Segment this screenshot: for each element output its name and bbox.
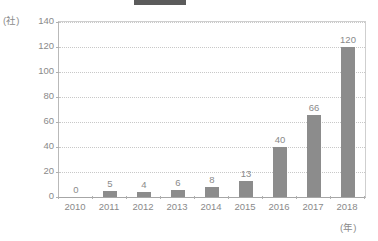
y-axis-tick-label: 60 xyxy=(14,116,54,126)
bar-value-label: 66 xyxy=(309,103,320,113)
y-axis-tick-label: 20 xyxy=(14,166,54,176)
x-axis-tick-label: 2011 xyxy=(92,201,126,212)
bar-value-label: 40 xyxy=(275,135,286,145)
bar-group: 4 xyxy=(127,22,161,197)
bar[interactable] xyxy=(307,115,321,198)
bar-group: 40 xyxy=(263,22,297,197)
y-axis-tick-label: 120 xyxy=(14,41,54,51)
bar-group: 120 xyxy=(331,22,365,197)
x-axis-unit-label: (年) xyxy=(340,222,356,233)
bar-group: 6 xyxy=(161,22,195,197)
x-axis-tick xyxy=(296,196,297,199)
bar-group: 8 xyxy=(195,22,229,197)
x-axis-tick xyxy=(228,196,229,199)
bar-group: 66 xyxy=(297,22,331,197)
x-axis-tick xyxy=(364,196,365,199)
bar-value-label: 4 xyxy=(141,180,146,190)
x-axis-tick xyxy=(330,196,331,199)
bar-value-label: 8 xyxy=(209,175,214,185)
bar[interactable] xyxy=(171,190,185,198)
y-axis-tick-label: 140 xyxy=(14,16,54,26)
bar-chart: (社) 020406080100120140 05468134066120 20… xyxy=(0,0,378,241)
bar[interactable] xyxy=(205,187,219,197)
plot-area: 05468134066120 xyxy=(58,21,366,198)
bar-group: 0 xyxy=(59,22,93,197)
y-axis-tick-label: 0 xyxy=(14,191,54,201)
x-axis-tick-label: 2017 xyxy=(296,201,330,212)
y-axis-tick-label: 80 xyxy=(14,91,54,101)
x-axis-tick-label: 2013 xyxy=(160,201,194,212)
bar[interactable] xyxy=(103,191,117,197)
x-axis-tick-label: 2016 xyxy=(262,201,296,212)
x-axis-tick-label: 2014 xyxy=(194,201,228,212)
x-axis-tick xyxy=(262,196,263,199)
bar[interactable] xyxy=(137,192,151,197)
y-axis-labels: 020406080100120140 xyxy=(10,21,54,196)
x-axis-labels: 201020112012201320142015201620172018 xyxy=(58,201,364,215)
bar-value-label: 5 xyxy=(107,179,112,189)
bar-value-label: 6 xyxy=(175,178,180,188)
x-axis-tick xyxy=(126,196,127,199)
bar-group: 5 xyxy=(93,22,127,197)
bar-group: 13 xyxy=(229,22,263,197)
x-axis-tick-label: 2015 xyxy=(228,201,262,212)
x-axis-tick xyxy=(92,196,93,199)
y-axis-tick-label: 100 xyxy=(14,66,54,76)
bar-value-label: 0 xyxy=(73,185,78,195)
y-axis-tick-label: 40 xyxy=(14,141,54,151)
x-axis-tick xyxy=(160,196,161,199)
bar[interactable] xyxy=(239,181,253,197)
x-axis-tick-label: 2012 xyxy=(126,201,160,212)
x-axis-tick xyxy=(58,196,59,199)
bar[interactable] xyxy=(341,47,355,197)
bar[interactable] xyxy=(273,147,287,197)
bar-value-label: 13 xyxy=(241,169,252,179)
bar-value-label: 120 xyxy=(340,35,356,45)
x-axis-tick-label: 2010 xyxy=(58,201,92,212)
x-axis-tick-label: 2018 xyxy=(330,201,364,212)
x-axis-tick xyxy=(194,196,195,199)
